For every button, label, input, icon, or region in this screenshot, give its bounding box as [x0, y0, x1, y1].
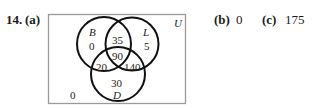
- set-d-label: D: [112, 89, 121, 101]
- region-l-only: 5: [144, 40, 150, 52]
- region-b-only: 0: [89, 40, 95, 52]
- region-outside: 0: [70, 89, 76, 101]
- region-l-d: 140: [124, 61, 141, 73]
- universe-label: U: [174, 17, 183, 29]
- region-b-l: 35: [112, 34, 124, 46]
- region-b-l-d: 90: [112, 50, 124, 62]
- part-b-label: (b): [214, 13, 230, 26]
- region-d-only: 30: [111, 77, 123, 89]
- set-l-label: L: [142, 26, 149, 38]
- set-b-label: B: [89, 26, 96, 38]
- region-b-d: 20: [96, 61, 108, 73]
- part-c-answer: 175: [285, 13, 305, 26]
- part-b-answer: 0: [236, 13, 243, 26]
- part-c-label: (c): [262, 13, 276, 26]
